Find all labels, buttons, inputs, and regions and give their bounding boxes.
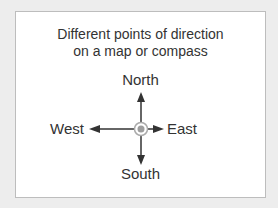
- north-arrow-icon: [137, 92, 145, 122]
- diagram-card: Different points of direction on a map o…: [15, 11, 266, 198]
- compass-arrows: [16, 12, 267, 199]
- south-arrow-icon: [137, 136, 145, 165]
- east-arrow-icon: [148, 125, 164, 133]
- center-point-icon: [135, 123, 148, 136]
- west-arrow-icon: [89, 125, 134, 133]
